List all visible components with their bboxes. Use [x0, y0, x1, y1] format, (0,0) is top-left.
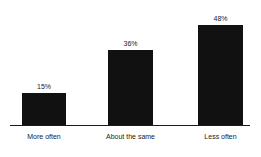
category-label-about-the-same: About the same — [106, 133, 155, 141]
bar-rect — [22, 93, 66, 125]
x-axis-baseline — [10, 125, 250, 126]
bar-rect — [198, 25, 243, 125]
category-label-less-often: Less often — [204, 133, 236, 141]
bar-value-label: 36% — [123, 40, 137, 48]
bar-rect — [108, 50, 153, 125]
plot-area: 15% More often 36% About the same 48% Le… — [0, 0, 261, 157]
bar-value-label: 48% — [213, 15, 227, 23]
category-label-more-often: More often — [27, 133, 60, 141]
bar-chart-figure: . . . 15% More often 36% About the same … — [0, 0, 261, 157]
bar-value-label: 15% — [37, 83, 51, 91]
